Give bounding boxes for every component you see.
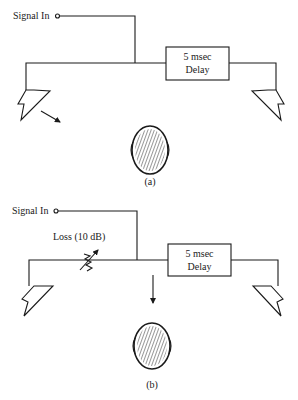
- caption-b: (b): [146, 379, 158, 391]
- left-bus-wire: [26, 63, 166, 90]
- left-speaker-icon: [18, 90, 50, 120]
- left-speaker-icon: [22, 286, 53, 316]
- stereo-delay-diagram: Signal In 5 msec Delay (a) Signal In: [0, 0, 298, 400]
- right-speaker-icon: [253, 286, 283, 316]
- right-speaker-icon: [252, 90, 284, 120]
- caption-a: (a): [144, 176, 155, 188]
- delay-label-line2: Delay: [186, 64, 210, 75]
- delay-label-line1: 5 msec: [183, 51, 212, 62]
- delay-label-line1: 5 msec: [185, 248, 214, 259]
- input-wire: [60, 16, 136, 63]
- listener-head-icon: [131, 126, 169, 174]
- left-bus-wire: [29, 260, 168, 286]
- signal-in-label: Signal In: [13, 10, 49, 21]
- input-terminal-icon: [56, 14, 60, 18]
- panel-a: Signal In 5 msec Delay (a): [13, 10, 284, 188]
- panel-b: Signal In Loss (10 dB) 5 msec Delay: [12, 205, 283, 391]
- sound-direction-arrow-icon: [41, 111, 60, 122]
- delay-label-line2: Delay: [188, 261, 212, 272]
- listener-head-icon: [133, 323, 171, 369]
- signal-in-label: Signal In: [12, 205, 48, 216]
- input-terminal-icon: [54, 209, 58, 213]
- right-bus-wire: [231, 260, 278, 286]
- right-bus-wire: [229, 63, 276, 90]
- loss-label: Loss (10 dB): [53, 231, 105, 243]
